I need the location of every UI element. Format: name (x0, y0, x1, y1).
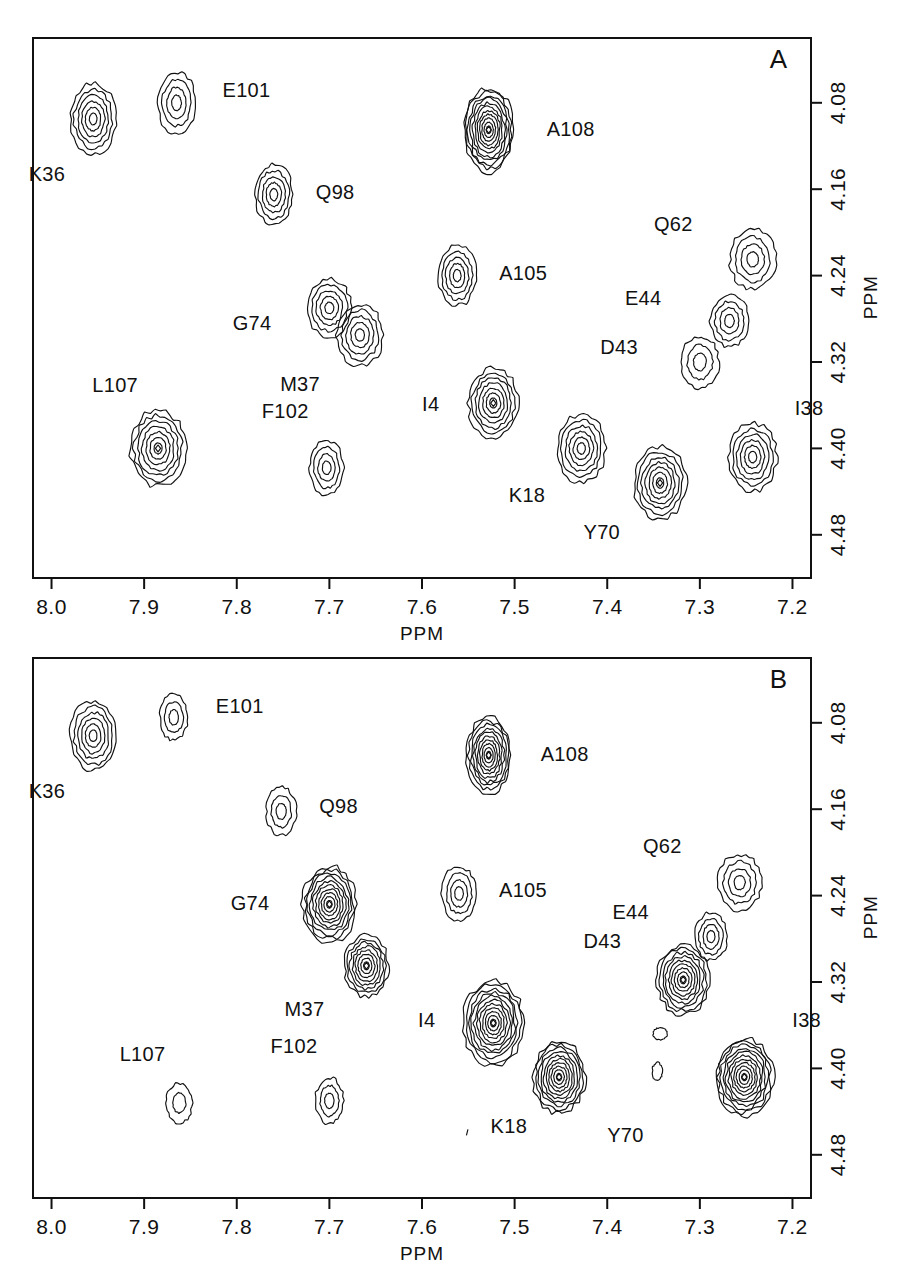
peak-label: K36 (29, 163, 66, 185)
contour-ring (687, 344, 714, 380)
peak-label: Y70 (607, 1124, 644, 1146)
y-tick-label: 4.16 (826, 168, 849, 211)
contour-ring (749, 451, 757, 463)
contour-peak: Q62 (654, 213, 777, 290)
x-tick-label: 7.3 (685, 595, 716, 618)
contour-ring (561, 419, 601, 477)
peak-label: A108 (547, 118, 595, 140)
peak-label: Q62 (643, 835, 682, 857)
contour-ring (725, 314, 735, 327)
contour-ring (573, 437, 590, 460)
peak-label: Q98 (316, 181, 355, 203)
noise-contour (653, 1028, 667, 1041)
contour-ring (484, 122, 493, 137)
x-tick-label: 7.2 (777, 1215, 808, 1238)
peak-label: Q62 (654, 213, 693, 235)
peak-label: I4 (422, 393, 439, 415)
y-tick-label: 4.32 (826, 341, 849, 384)
contour-ring (271, 796, 292, 828)
contour-ring (70, 82, 117, 156)
contour-peak: D43 (584, 930, 711, 1016)
y-tick-label: 4.40 (826, 1047, 849, 1090)
x-tick-label: 7.5 (499, 595, 530, 618)
x-tick-label: 8.0 (36, 595, 67, 618)
contour-ring (318, 454, 336, 481)
contour-ring (557, 413, 606, 483)
contour-ring (703, 925, 719, 950)
peak-label: F102 (271, 1035, 318, 1057)
spectrum-plot-a: 8.07.97.87.77.67.57.47.37.2PPM4.084.164.… (0, 0, 898, 640)
y-tick-label: 4.08 (826, 81, 849, 124)
contour-peak: E101 (159, 693, 263, 741)
peak-label: I4 (418, 1009, 435, 1031)
contour-ring (744, 445, 761, 468)
contour-ring (161, 79, 191, 127)
contour-ring (475, 378, 511, 429)
x-tick-label: 7.6 (407, 595, 438, 618)
contour-ring (438, 245, 477, 306)
contour-ring (477, 111, 500, 149)
contour-ring (693, 353, 706, 371)
x-tick-label: 7.4 (592, 595, 623, 618)
nmr-figure: 8.07.97.87.77.67.57.47.37.2PPM4.084.164.… (0, 0, 898, 1271)
peak-label: K36 (29, 780, 66, 802)
contour-ring (707, 930, 715, 942)
contour-peak: Q98 (266, 786, 358, 836)
peak-label: D43 (600, 336, 638, 358)
plot-frame (33, 658, 811, 1198)
y-tick-label: 4.32 (826, 961, 849, 1004)
y-tick-label: 4.24 (826, 254, 849, 297)
contour-ring (266, 786, 297, 836)
contour-ring (747, 252, 758, 267)
contour-peak: G74 (233, 277, 352, 338)
panel-letter: B (770, 664, 787, 694)
y-tick-label: 4.16 (826, 788, 849, 831)
contour-peak: A108 (464, 88, 595, 175)
peak-label: E44 (625, 287, 662, 309)
contour-ring (351, 322, 370, 347)
contour-peak: L107 (92, 374, 187, 487)
contour-peak: E44 (625, 287, 749, 347)
contour-peak: D43 (600, 336, 720, 390)
contour-ring (85, 107, 100, 131)
contour-peak: Q62 (643, 835, 762, 912)
contour-ring (276, 804, 286, 820)
x-tick-label: 7.6 (407, 1215, 438, 1238)
peak-maximum-marker (155, 445, 160, 452)
contour-ring (728, 869, 750, 897)
peak-label: L107 (92, 374, 138, 396)
contour-ring (668, 960, 697, 999)
contour-ring (720, 307, 739, 334)
y-tick-label: 4.48 (826, 1133, 849, 1176)
contour-ring (731, 1059, 758, 1095)
contour-ring (320, 296, 338, 320)
peak-label: K18 (509, 484, 546, 506)
contour-peak: I4 (418, 979, 525, 1066)
x-tick-label: 7.9 (129, 595, 160, 618)
peak-maximum-marker (657, 480, 662, 487)
contour-ring (641, 457, 680, 509)
contour-ring (164, 702, 183, 733)
contour-ring (734, 875, 745, 889)
y-axis-title: PPM (860, 895, 881, 939)
y-tick-label: 4.48 (826, 513, 849, 556)
peak-label: E101 (223, 79, 271, 101)
y-tick-label: 4.40 (826, 427, 849, 470)
x-tick-label: 7.3 (685, 1215, 716, 1238)
contour-peak: I38 (728, 397, 824, 492)
contour-peak: K18 (491, 1042, 587, 1137)
panel-a: 8.07.97.87.77.67.57.47.37.2PPM4.084.164.… (0, 0, 898, 640)
contour-ring (488, 1015, 499, 1030)
contour-ring (455, 886, 464, 900)
contour-peak: A105 (441, 867, 547, 921)
contour-ring (322, 461, 331, 475)
contour-ring (325, 302, 334, 314)
x-tick-label: 7.5 (499, 1215, 530, 1238)
contour-ring (73, 88, 113, 149)
x-tick-label: 7.7 (314, 595, 345, 618)
peak-label: A105 (499, 262, 547, 284)
contour-ring (728, 421, 779, 492)
peak-label: L107 (120, 1043, 166, 1065)
contour-ring (312, 881, 346, 929)
contour-peak: K36 (29, 82, 117, 185)
